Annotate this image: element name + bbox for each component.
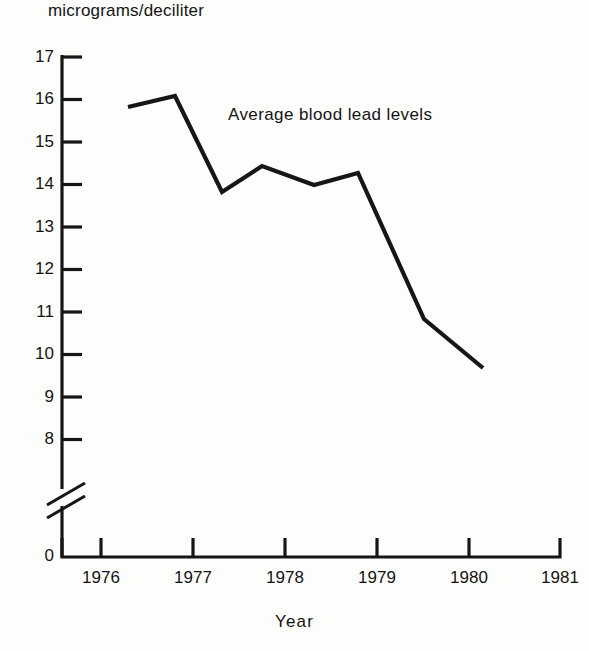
x-axis-title: Year bbox=[0, 612, 589, 632]
y-tick-label-9: 9 bbox=[20, 387, 54, 407]
y-tick-label-14: 14 bbox=[20, 174, 54, 194]
x-tick-label-1977: 1977 bbox=[163, 568, 223, 588]
chart-figure: micrograms/deciliter 17 1 bbox=[0, 0, 589, 651]
x-tick-label-1981: 1981 bbox=[530, 568, 589, 588]
x-tick-label-1978: 1978 bbox=[255, 568, 315, 588]
y-tick-label-15: 15 bbox=[20, 132, 54, 152]
x-axis-spine bbox=[62, 538, 560, 557]
y-tick-label-12: 12 bbox=[20, 259, 54, 279]
chart-plot-area bbox=[0, 0, 589, 651]
y-tick-label-17: 17 bbox=[20, 47, 54, 67]
y-tick-label-8: 8 bbox=[20, 429, 54, 449]
series-annotation-label: Average blood lead levels bbox=[228, 105, 432, 125]
x-tick-label-1976: 1976 bbox=[71, 568, 131, 588]
data-series-line bbox=[128, 96, 483, 368]
y-tick-label-11: 11 bbox=[20, 302, 54, 322]
x-tick-label-1979: 1979 bbox=[347, 568, 407, 588]
y-tick-label-16: 16 bbox=[20, 89, 54, 109]
y-tick-label-13: 13 bbox=[20, 217, 54, 237]
x-tick-label-1980: 1980 bbox=[439, 568, 499, 588]
y-tick-label-0: 0 bbox=[20, 546, 54, 566]
y-tick-label-10: 10 bbox=[20, 344, 54, 364]
axis-break-icon bbox=[47, 483, 85, 518]
